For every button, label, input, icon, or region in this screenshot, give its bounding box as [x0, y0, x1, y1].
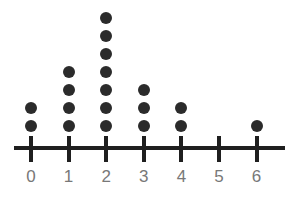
dot-2-2: [100, 102, 112, 114]
x-axis-tick-6: [255, 136, 259, 162]
dot-1-2: [63, 102, 75, 114]
dot-plot-chart: 0123456: [0, 0, 297, 204]
dot-2-6: [100, 30, 112, 42]
x-axis-tick-4: [179, 136, 183, 162]
x-axis-label-4: 4: [169, 168, 193, 185]
dot-3-2: [138, 102, 150, 114]
x-axis-label-2: 2: [94, 168, 118, 185]
x-axis-label-3: 3: [132, 168, 156, 185]
x-axis-label-1: 1: [57, 168, 81, 185]
dot-3-3: [138, 84, 150, 96]
dot-4-1: [175, 120, 187, 132]
dot-2-5: [100, 48, 112, 60]
x-axis-label-0: 0: [19, 168, 43, 185]
dot-1-3: [63, 84, 75, 96]
dot-2-1: [100, 120, 112, 132]
x-axis-tick-1: [67, 136, 71, 162]
x-axis-tick-2: [104, 136, 108, 162]
dot-1-4: [63, 66, 75, 78]
x-axis-label-6: 6: [245, 168, 269, 185]
dot-1-1: [63, 120, 75, 132]
dot-2-3: [100, 84, 112, 96]
x-axis-tick-5: [217, 136, 221, 162]
x-axis-label-5: 5: [207, 168, 231, 185]
x-axis-tick-3: [142, 136, 146, 162]
dot-6-1: [251, 120, 263, 132]
dot-3-1: [138, 120, 150, 132]
dot-0-2: [25, 102, 37, 114]
dot-2-4: [100, 66, 112, 78]
dot-4-2: [175, 102, 187, 114]
dot-0-1: [25, 120, 37, 132]
x-axis-tick-0: [29, 136, 33, 162]
x-axis-line: [14, 146, 285, 150]
dot-2-7: [100, 12, 112, 24]
